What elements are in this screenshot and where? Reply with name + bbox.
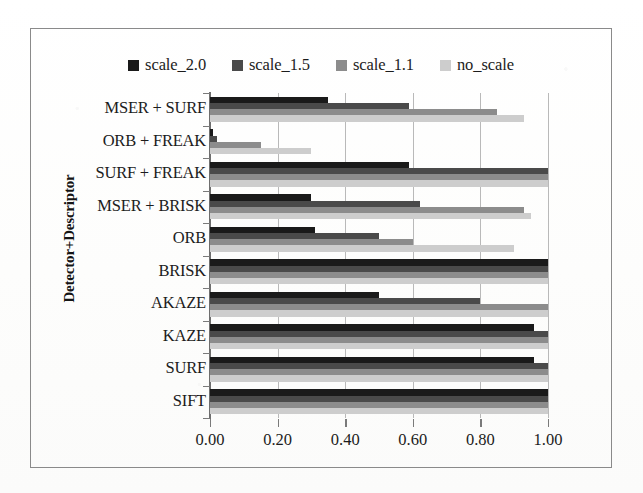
bar[interactable] bbox=[210, 310, 548, 316]
x-axis-tick bbox=[548, 419, 549, 427]
bar[interactable] bbox=[210, 213, 531, 219]
y-axis-category-label: MSER + SURF bbox=[104, 100, 206, 117]
x-axis-tick-labels: 0.000.200.400.600.801.00 bbox=[210, 430, 548, 454]
legend-label-scale-1-1: scale_1.1 bbox=[353, 55, 414, 75]
bar-group bbox=[210, 288, 548, 321]
bar-group bbox=[210, 223, 548, 256]
y-axis-category-label: KAZE bbox=[163, 328, 206, 345]
bar[interactable] bbox=[210, 115, 524, 121]
legend-item-scale-1-5[interactable]: scale_1.5 bbox=[232, 55, 310, 75]
y-axis-category-label: BRISK bbox=[158, 263, 206, 280]
bar[interactable] bbox=[210, 375, 548, 381]
y-axis-category-label: ORB + FREAK bbox=[103, 133, 206, 150]
plot-area bbox=[210, 93, 548, 418]
legend-swatch-scale-1-5 bbox=[232, 60, 243, 71]
bar-group bbox=[210, 158, 548, 191]
legend-label-scale-1-5: scale_1.5 bbox=[249, 55, 310, 75]
x-axis-tick-label: 0.20 bbox=[263, 430, 292, 450]
x-axis-tick-label: 0.80 bbox=[466, 430, 495, 450]
y-axis-category-labels: MSER + SURFORB + FREAKSURF + FREAKMSER +… bbox=[60, 93, 206, 418]
x-axis-tick bbox=[480, 419, 481, 427]
y-axis-category-label: SIFT bbox=[173, 393, 206, 410]
y-axis-category-label: ORB bbox=[173, 230, 206, 247]
x-axis-tick bbox=[278, 419, 279, 427]
x-axis-tick-label: 1.00 bbox=[534, 430, 563, 450]
legend-item-no-scale[interactable]: no_scale bbox=[440, 55, 514, 75]
x-axis-tick bbox=[413, 419, 414, 427]
legend-swatch-scale-1-1 bbox=[336, 60, 347, 71]
bar[interactable] bbox=[210, 148, 311, 154]
x-axis-tick-label: 0.60 bbox=[398, 430, 427, 450]
legend-swatch-no-scale bbox=[440, 60, 451, 71]
legend-item-scale-1-1[interactable]: scale_1.1 bbox=[336, 55, 414, 75]
legend-label-scale-2-0: scale_2.0 bbox=[145, 55, 206, 75]
bar-group bbox=[210, 353, 548, 386]
bar[interactable] bbox=[210, 278, 548, 284]
bar-group bbox=[210, 386, 548, 419]
x-axis-tick bbox=[210, 419, 211, 427]
y-axis-category-label: SURF bbox=[166, 360, 206, 377]
bar[interactable] bbox=[210, 245, 514, 251]
bar[interactable] bbox=[210, 343, 548, 349]
chart-legend: scale_2.0 scale_1.5 scale_1.1 no_scale bbox=[30, 52, 612, 78]
bar-group bbox=[210, 321, 548, 354]
x-axis-tick-label: 0.40 bbox=[331, 430, 360, 450]
x-axis-tick bbox=[345, 419, 346, 427]
legend-swatch-scale-2-0 bbox=[128, 60, 139, 71]
legend-item-scale-2-0[interactable]: scale_2.0 bbox=[128, 55, 206, 75]
x-axis-tick-label: 0.00 bbox=[196, 430, 225, 450]
bar-group bbox=[210, 256, 548, 289]
bar-group bbox=[210, 93, 548, 126]
bar[interactable] bbox=[210, 408, 548, 414]
legend-label-no-scale: no_scale bbox=[457, 55, 514, 75]
bar-group bbox=[210, 126, 548, 159]
y-axis-category-label: AKAZE bbox=[151, 295, 206, 312]
bar[interactable] bbox=[210, 180, 548, 186]
y-axis-category-label: MSER + BRISK bbox=[97, 198, 206, 215]
y-axis-tick bbox=[203, 418, 210, 419]
y-axis-category-label: SURF + FREAK bbox=[95, 165, 206, 182]
bar-group bbox=[210, 191, 548, 224]
y-axis-title: Detector+Descriptor bbox=[61, 151, 78, 326]
